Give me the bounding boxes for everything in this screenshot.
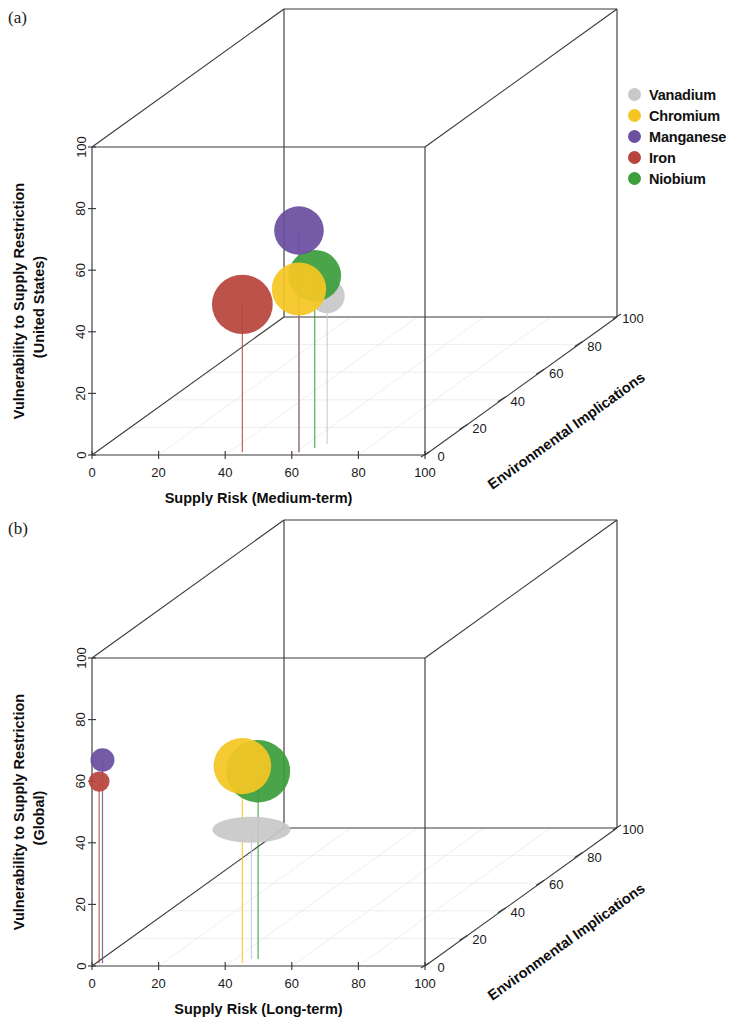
svg-text:20: 20 bbox=[151, 976, 165, 991]
svg-text:20: 20 bbox=[472, 421, 486, 436]
data-point-vanadium bbox=[212, 817, 290, 843]
svg-text:80: 80 bbox=[587, 339, 601, 354]
svg-text:100: 100 bbox=[622, 822, 644, 837]
plot-b-canvas: 020406080100020406080100020406080100Supp… bbox=[0, 511, 753, 1022]
data-point-iron bbox=[89, 771, 110, 791]
legend-swatch-icon bbox=[628, 130, 641, 143]
legend-swatch-icon bbox=[628, 172, 641, 185]
svg-text:100: 100 bbox=[622, 311, 644, 326]
data-point-manganese bbox=[91, 748, 115, 771]
svg-text:60: 60 bbox=[549, 366, 563, 381]
svg-text:100: 100 bbox=[74, 647, 89, 669]
legend-swatch-icon bbox=[628, 88, 641, 101]
svg-text:60: 60 bbox=[74, 263, 89, 277]
legend-swatch-icon bbox=[628, 109, 641, 122]
svg-text:40: 40 bbox=[218, 465, 232, 480]
legend-item-iron: Iron bbox=[628, 147, 753, 168]
y-axis-title-line2: (Global) bbox=[31, 790, 47, 845]
legend-label: Vanadium bbox=[649, 87, 716, 103]
legend-label: Manganese bbox=[649, 129, 726, 145]
legend-item-niobium: Niobium bbox=[628, 168, 753, 189]
svg-text:20: 20 bbox=[472, 932, 486, 947]
svg-text:40: 40 bbox=[511, 394, 525, 409]
y-axis-title-line1: Vulnerability to Supply Restriction bbox=[11, 183, 27, 419]
legend-item-vanadium: Vanadium bbox=[628, 84, 753, 105]
legend-label: Niobium bbox=[649, 171, 706, 187]
x-axis-title: Supply Risk (Medium-term) bbox=[165, 490, 353, 506]
svg-text:40: 40 bbox=[74, 325, 89, 339]
svg-text:0: 0 bbox=[437, 449, 444, 464]
legend-swatch-icon bbox=[628, 151, 641, 164]
svg-text:80: 80 bbox=[351, 976, 365, 991]
legend-label: Iron bbox=[649, 150, 676, 166]
svg-text:0: 0 bbox=[437, 960, 444, 975]
legend-a: VanadiumChromiumManganeseIronNiobium bbox=[628, 84, 753, 189]
svg-text:60: 60 bbox=[285, 976, 299, 991]
y-axis-title-line2: (United States) bbox=[31, 256, 47, 358]
plot-a-canvas: 020406080100020406080100020406080100Supp… bbox=[0, 0, 753, 511]
svg-text:80: 80 bbox=[74, 712, 89, 726]
z-axis-title: Environmental Implications bbox=[485, 369, 648, 493]
y-axis-title-line1: Vulnerability to Supply Restriction bbox=[11, 694, 27, 930]
svg-text:80: 80 bbox=[351, 465, 365, 480]
svg-text:40: 40 bbox=[511, 905, 525, 920]
legend-item-manganese: Manganese bbox=[628, 126, 753, 147]
data-point-manganese bbox=[274, 206, 324, 254]
svg-text:40: 40 bbox=[74, 836, 89, 850]
svg-text:100: 100 bbox=[74, 136, 89, 158]
data-point-chromium bbox=[272, 262, 326, 315]
data-point-chromium bbox=[214, 738, 272, 794]
legend-label: Chromium bbox=[649, 108, 720, 124]
legend-item-chromium: Chromium bbox=[628, 105, 753, 126]
svg-text:60: 60 bbox=[549, 877, 563, 892]
svg-text:80: 80 bbox=[587, 850, 601, 865]
svg-text:100: 100 bbox=[414, 465, 436, 480]
panel-b: (b) 020406080100020406080100020406080100… bbox=[0, 511, 753, 1022]
svg-text:20: 20 bbox=[74, 386, 89, 400]
x-axis-title: Supply Risk (Long-term) bbox=[174, 1001, 343, 1017]
svg-text:0: 0 bbox=[74, 962, 89, 969]
z-axis-title: Environmental Implications bbox=[485, 880, 648, 1004]
svg-text:60: 60 bbox=[74, 774, 89, 788]
svg-text:60: 60 bbox=[285, 465, 299, 480]
data-point-iron bbox=[212, 275, 273, 334]
svg-text:0: 0 bbox=[74, 451, 89, 458]
svg-text:20: 20 bbox=[151, 465, 165, 480]
svg-text:0: 0 bbox=[88, 976, 95, 991]
svg-text:0: 0 bbox=[88, 465, 95, 480]
svg-text:40: 40 bbox=[218, 976, 232, 991]
svg-text:20: 20 bbox=[74, 897, 89, 911]
svg-text:80: 80 bbox=[74, 201, 89, 215]
panel-a: (a) 020406080100020406080100020406080100… bbox=[0, 0, 753, 511]
svg-text:100: 100 bbox=[414, 976, 436, 991]
